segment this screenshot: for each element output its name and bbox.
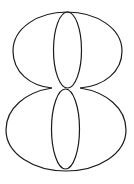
top-inner-ellipse: [54, 12, 82, 88]
top-lobe: [13, 12, 122, 88]
bottom-inner-ellipse: [52, 89, 80, 169]
figure-eight-drawing: [0, 0, 134, 184]
bottom-lobe: [6, 88, 126, 171]
eight-outline-icon: [0, 0, 134, 184]
